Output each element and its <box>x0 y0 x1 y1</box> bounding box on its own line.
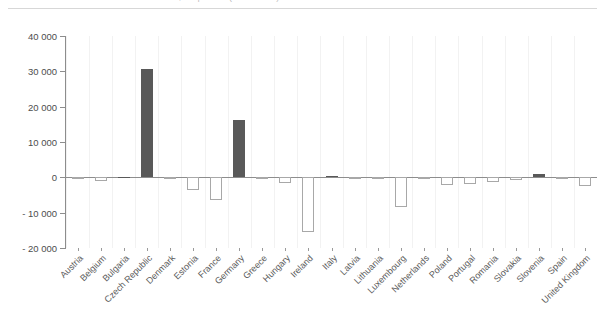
x-axis-label: Romania <box>352 253 500 335</box>
x-tick <box>285 248 286 251</box>
x-tick <box>216 248 217 251</box>
bar-lithuania <box>372 177 384 179</box>
x-axis-label: Latvia <box>213 253 361 335</box>
chart-page: EU Member States, net position (EUR mill… <box>0 0 605 335</box>
y-tick-label: - 10 000 <box>22 207 57 218</box>
bar-latvia <box>349 177 361 179</box>
gridline-vertical <box>528 36 529 248</box>
bar-bulgaria <box>118 177 130 179</box>
bar-romania <box>487 177 499 182</box>
x-axis-label: Ireland <box>167 253 315 335</box>
gridline-vertical <box>482 36 483 248</box>
gridline-vertical <box>297 36 298 248</box>
x-axis-label: France <box>75 253 223 335</box>
x-axis-label: Slovakia <box>375 253 523 335</box>
y-tick-label: 20 000 <box>28 101 57 112</box>
gridline-vertical <box>343 36 344 248</box>
gridline-vertical <box>228 36 229 248</box>
gridline-vertical <box>89 36 90 248</box>
x-tick <box>516 248 517 251</box>
gridline-vertical <box>135 36 136 248</box>
x-axis-label: Bulgaria <box>0 253 131 335</box>
bar-slovakia <box>510 177 522 179</box>
bar-hungary <box>279 177 291 183</box>
gridline-vertical <box>412 36 413 248</box>
x-tick <box>193 248 194 251</box>
y-tick-label: - 20 000 <box>22 243 57 254</box>
x-tick <box>424 248 425 251</box>
x-tick <box>147 248 148 251</box>
x-tick <box>308 248 309 251</box>
bar-slovenia <box>533 174 545 178</box>
x-axis-label: Greece <box>121 253 269 335</box>
bar-denmark <box>164 177 176 179</box>
gridline-vertical <box>574 36 575 248</box>
x-axis-label: Denmark <box>28 253 176 335</box>
x-tick <box>262 248 263 251</box>
x-tick <box>585 248 586 251</box>
x-tick <box>170 248 171 251</box>
bar-estonia <box>187 177 199 189</box>
bar-luxembourg <box>395 177 407 207</box>
bar-spain <box>556 177 568 179</box>
x-axis-label: Czech Republic <box>5 253 153 335</box>
header-divider <box>8 8 597 9</box>
gridline-vertical <box>205 36 206 248</box>
gridline-vertical <box>458 36 459 248</box>
x-tick <box>332 248 333 251</box>
x-tick <box>378 248 379 251</box>
gridline-vertical <box>366 36 367 248</box>
x-axis-label: Slovenia <box>398 253 546 335</box>
gridline-vertical <box>320 36 321 248</box>
gridline-vertical <box>274 36 275 248</box>
y-tick-label: 40 000 <box>28 31 57 42</box>
x-axis-label: Germany <box>98 253 246 335</box>
bar-portugal <box>464 177 476 184</box>
bar-czech-republic <box>141 69 153 178</box>
y-tick-label: 0 <box>52 172 57 183</box>
bar-germany <box>233 120 245 177</box>
x-tick <box>539 248 540 251</box>
x-tick <box>562 248 563 251</box>
x-axis-label: Luxembourg <box>259 253 407 335</box>
x-axis-label: Spain <box>421 253 569 335</box>
x-tick <box>401 248 402 251</box>
x-axis-label: Lithuania <box>236 253 384 335</box>
gridline-vertical <box>181 36 182 248</box>
gridline-vertical <box>158 36 159 248</box>
y-tick-label: 10 000 <box>28 137 57 148</box>
gridline-vertical <box>112 36 113 248</box>
bar-belgium <box>95 177 107 180</box>
bar-poland <box>441 177 453 185</box>
gridline-vertical <box>66 36 67 248</box>
x-tick <box>470 248 471 251</box>
y-tick-label: 30 000 <box>28 66 57 77</box>
gridline-vertical <box>551 36 552 248</box>
bar-united-kingdom <box>579 177 591 186</box>
x-tick <box>78 248 79 251</box>
gridline-vertical <box>251 36 252 248</box>
bar-greece <box>256 177 268 179</box>
x-axis-label: United Kingdom <box>444 253 592 335</box>
x-tick <box>447 248 448 251</box>
x-axis-label: Poland <box>306 253 454 335</box>
plot-area <box>66 36 597 248</box>
x-tick <box>493 248 494 251</box>
x-tick <box>239 248 240 251</box>
bar-netherlands <box>418 177 430 179</box>
x-axis-label: Estonia <box>52 253 200 335</box>
bar-italy <box>326 176 338 178</box>
bar-ireland <box>302 177 314 232</box>
x-axis-label: Austria <box>0 253 85 335</box>
gridline-vertical <box>505 36 506 248</box>
bar-france <box>210 177 222 200</box>
x-axis-label: Netherlands <box>282 253 430 335</box>
x-axis-label: Italy <box>190 253 338 335</box>
x-tick <box>101 248 102 251</box>
bar-austria <box>72 177 84 179</box>
x-axis-label: Hungary <box>144 253 292 335</box>
x-axis-label: Belgium <box>0 253 108 335</box>
gridline-vertical <box>389 36 390 248</box>
cropped-title-text: EU Member States, net position (EUR mill… <box>108 0 279 2</box>
x-axis-label: Portugal <box>329 253 477 335</box>
